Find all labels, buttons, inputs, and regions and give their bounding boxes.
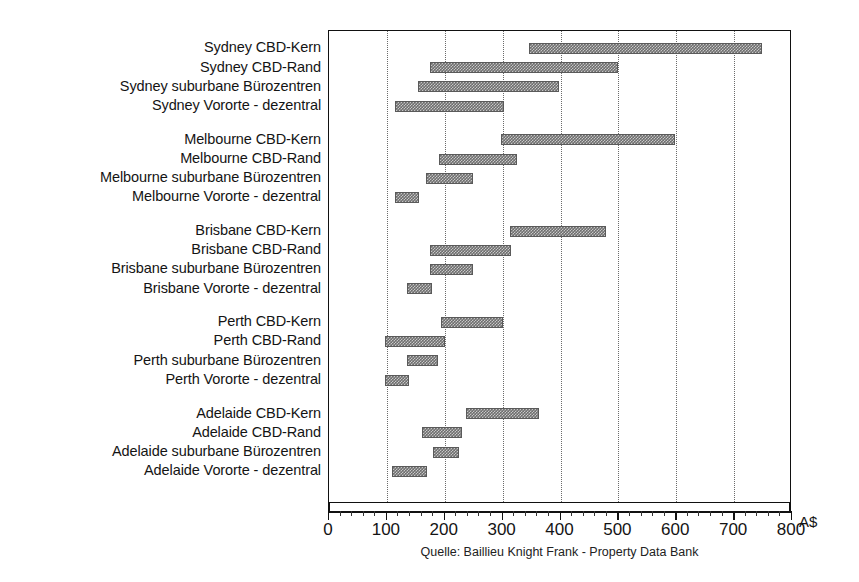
x-tick-minor-220 <box>455 511 456 516</box>
bar-range <box>466 408 539 419</box>
x-tick-minor-120 <box>397 511 398 516</box>
x-tick-minor-180 <box>432 511 433 516</box>
x-tick-minor-460 <box>594 511 595 516</box>
bar-range <box>441 317 502 328</box>
plot-inner <box>329 31 790 502</box>
x-tick-major-700 <box>733 511 734 520</box>
x-tick-minor-540 <box>641 511 642 516</box>
x-tick-minor-340 <box>525 511 526 516</box>
x-tick-minor-40 <box>351 511 352 516</box>
x-tick-minor-240 <box>467 511 468 516</box>
category-label: Melbourne CBD-Rand <box>180 151 321 166</box>
x-tick-minor-760 <box>768 511 769 516</box>
x-tick-minor-420 <box>571 511 572 516</box>
x-tick-label-0: 0 <box>323 521 332 538</box>
category-label: Brisbane CBD-Kern <box>195 223 321 238</box>
x-tick-minor-160 <box>421 511 422 516</box>
category-label: Melbourne Vororte - dezentral <box>132 189 321 204</box>
x-tick-major-200 <box>444 511 445 520</box>
x-tick-minor-720 <box>745 511 746 516</box>
x-tick-minor-480 <box>606 511 607 516</box>
x-tick-minor-680 <box>722 511 723 516</box>
x-tick-label-200: 200 <box>430 521 458 538</box>
plot-area <box>328 30 791 503</box>
x-tick-minor-660 <box>710 511 711 516</box>
category-label: Adelaide CBD-Rand <box>192 425 321 440</box>
x-tick-minor-780 <box>779 511 780 516</box>
bar-range <box>426 173 473 184</box>
category-label: Sydney CBD-Kern <box>204 40 321 55</box>
bar-range <box>433 447 458 458</box>
category-label: Perth CBD-Kern <box>218 314 321 329</box>
x-tick-minor-380 <box>548 511 549 516</box>
bar-range <box>385 336 445 347</box>
bar-range <box>430 245 511 256</box>
x-tick-major-800 <box>791 511 792 520</box>
category-label: Brisbane CBD-Rand <box>191 242 321 257</box>
category-label: Melbourne CBD-Kern <box>184 132 321 147</box>
bar-range <box>439 154 517 165</box>
x-tick-minor-560 <box>652 511 653 516</box>
x-tick-minor-440 <box>583 511 584 516</box>
category-label: Sydney CBD-Rand <box>200 60 321 75</box>
x-tick-label-500: 500 <box>603 521 631 538</box>
bar-range <box>385 375 409 386</box>
x-tick-label-700: 700 <box>719 521 747 538</box>
bar-range <box>392 466 427 477</box>
x-tick-minor-280 <box>490 511 491 516</box>
x-tick-minor-60 <box>363 511 364 516</box>
bar-range <box>407 355 438 366</box>
x-tick-major-0 <box>328 511 329 520</box>
category-label: Adelaide CBD-Kern <box>196 406 321 421</box>
x-tick-minor-320 <box>513 511 514 516</box>
gridline-700 <box>734 31 736 502</box>
x-tick-minor-740 <box>756 511 757 516</box>
x-tick-minor-520 <box>629 511 630 516</box>
x-axis-unit-label: A$ <box>799 514 817 529</box>
gridline-100 <box>387 31 389 502</box>
bar-range <box>395 101 504 112</box>
category-label: Brisbane suburbane Bürozentren <box>111 261 321 276</box>
x-tick-major-300 <box>502 511 503 520</box>
category-label: Adelaide Vororte - dezentral <box>144 463 321 478</box>
bar-range <box>430 264 473 275</box>
category-label: Sydney Vororte - dezentral <box>152 98 321 113</box>
x-tick-minor-580 <box>664 511 665 516</box>
x-tick-minor-260 <box>478 511 479 516</box>
category-label: Perth suburbane Bürozentren <box>133 353 321 368</box>
category-label-column: Sydney CBD-KernSydney CBD-RandSydney sub… <box>0 0 324 503</box>
x-tick-major-600 <box>675 511 676 520</box>
bar-range <box>430 62 618 73</box>
x-tick-minor-80 <box>374 511 375 516</box>
x-tick-minor-360 <box>536 511 537 516</box>
x-tick-minor-640 <box>698 511 699 516</box>
category-label: Perth Vororte - dezentral <box>166 372 321 387</box>
category-label: Brisbane Vororte - dezentral <box>143 281 321 296</box>
x-tick-major-100 <box>386 511 387 520</box>
bar-range <box>510 226 606 237</box>
bar-range <box>422 427 463 438</box>
x-tick-minor-20 <box>340 511 341 516</box>
bar-range <box>407 283 432 294</box>
gridline-400 <box>561 31 563 502</box>
x-tick-minor-140 <box>409 511 410 516</box>
bar-range <box>501 134 675 145</box>
gridline-500 <box>618 31 620 502</box>
x-tick-label-300: 300 <box>487 521 515 538</box>
x-tick-major-400 <box>560 511 561 520</box>
bar-range <box>529 43 762 54</box>
office-rent-range-chart: Sydney CBD-KernSydney CBD-RandSydney sub… <box>0 0 859 582</box>
x-tick-label-100: 100 <box>372 521 400 538</box>
category-label: Perth CBD-Rand <box>214 333 321 348</box>
x-tick-minor-620 <box>687 511 688 516</box>
x-tick-major-500 <box>617 511 618 520</box>
gridline-600 <box>676 31 678 502</box>
x-tick-label-600: 600 <box>661 521 689 538</box>
category-label: Adelaide suburbane Bürozentren <box>112 444 321 459</box>
bar-range <box>395 192 419 203</box>
category-label: Sydney suburbane Bürozentren <box>120 79 321 94</box>
source-note: Quelle: Baillieu Knight Frank - Property… <box>328 546 791 559</box>
x-tick-label-400: 400 <box>545 521 573 538</box>
bar-range <box>418 81 559 92</box>
category-label: Melbourne suburbane Bürozentren <box>100 170 321 185</box>
